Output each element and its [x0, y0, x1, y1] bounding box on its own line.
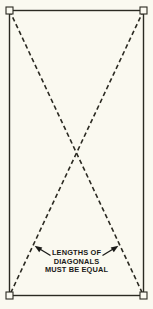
corner-marker-top-left	[6, 7, 13, 14]
callout-line-3: MUST BE EQUAL	[45, 265, 108, 274]
diagram-canvas: LENGTHS OF DIAGONALS MUST BE EQUAL	[0, 0, 153, 309]
corner-marker-bottom-left	[6, 292, 13, 299]
diagonal-equality-diagram: LENGTHS OF DIAGONALS MUST BE EQUAL	[0, 0, 153, 309]
diagonals-equal-callout: LENGTHS OF DIAGONALS MUST BE EQUAL	[45, 248, 108, 274]
corner-marker-top-right	[140, 7, 147, 14]
corner-marker-bottom-right	[140, 292, 147, 299]
